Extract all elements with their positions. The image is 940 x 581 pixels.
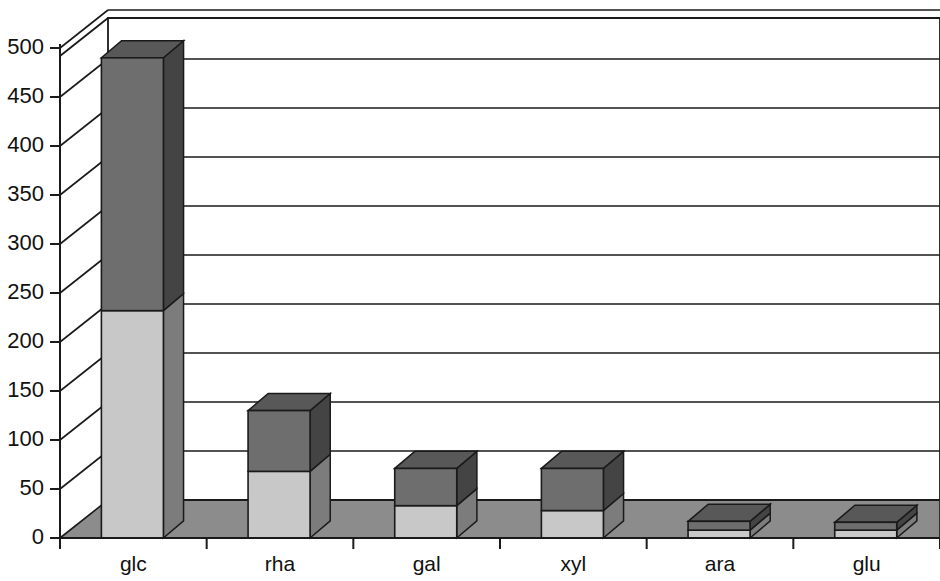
y-tick-label: 250 [7,279,44,304]
bar-glc[interactable] [101,41,183,538]
category-axis: glcrhagalxylaraglu [60,538,940,575]
back-wall [60,18,940,500]
bar-xyl[interactable] [541,451,623,538]
bar-side-upper [163,41,183,311]
bar-segment-lower [835,530,897,538]
x-category-label-rha: rha [265,552,296,575]
bar-segment-lower [248,471,310,538]
bar-segment-lower [101,311,163,538]
x-category-label-ara: ara [705,552,736,575]
y-tick-label: 400 [7,132,44,157]
x-category-label-gal: gal [413,552,441,575]
value-axis: 050100150200250300350400450500 [7,34,60,549]
chart-container: 050100150200250300350400450500glcrhagalx… [0,0,940,581]
y-tick-label: 200 [7,328,44,353]
bar-side-lower [163,294,183,538]
bar-segment-upper [248,411,310,472]
bar-segment-upper [101,58,163,311]
bar-segment-lower [688,530,750,538]
left-wall-top-edge [60,18,108,56]
y-tick-label: 450 [7,83,44,108]
x-category-label-glc: glc [120,552,147,575]
y-tick-label: 0 [32,524,44,549]
chart-floor [60,500,940,538]
y-tick-label: 500 [7,34,44,59]
y-tick-label: 300 [7,230,44,255]
y-tick-label: 50 [20,475,44,500]
bar-segment-upper [395,468,457,505]
bar-segment-upper [835,522,897,530]
bar-segment-upper [688,521,750,530]
y-tick-label: 350 [7,181,44,206]
bar-segment-upper [541,468,603,510]
gridline-connector [60,10,108,48]
x-category-label-xyl: xyl [560,552,586,575]
bar-gal[interactable] [395,451,477,538]
x-category-label-glu: glu [853,552,881,575]
back-wall-plane [108,18,940,500]
y-tick-label: 100 [7,426,44,451]
stacked-3d-bar-chart: 050100150200250300350400450500glcrhagalx… [0,0,940,581]
floor-plane [60,500,940,538]
bar-segment-lower [395,506,457,538]
bar-rha[interactable] [248,394,330,539]
y-tick-label: 150 [7,377,44,402]
bar-segment-lower [541,511,603,538]
